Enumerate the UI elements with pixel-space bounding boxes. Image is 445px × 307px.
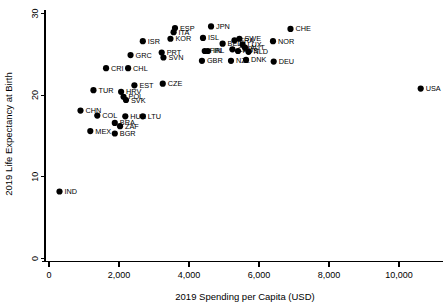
x-tick-label: 8,000 xyxy=(318,270,341,280)
point-marker xyxy=(94,112,100,118)
point-marker xyxy=(235,48,241,54)
point-marker xyxy=(167,36,173,42)
point-label: ISL xyxy=(208,33,219,42)
data-point: CZE xyxy=(160,79,183,88)
point-label: DEU xyxy=(279,57,294,66)
point-marker xyxy=(271,59,277,65)
point-marker xyxy=(112,120,118,126)
point-marker xyxy=(90,87,96,93)
point-marker xyxy=(220,41,226,47)
point-label: EST xyxy=(139,81,154,90)
data-point: GBR xyxy=(199,56,223,65)
y-tick-label: 10 xyxy=(30,172,40,182)
point-marker xyxy=(87,128,93,134)
data-point: DEU xyxy=(271,57,295,66)
y-tick-label: 30 xyxy=(30,8,40,18)
point-label: CZE xyxy=(168,79,183,88)
point-label: SVN xyxy=(168,53,183,62)
data-point: CHE xyxy=(287,24,311,33)
point-marker xyxy=(228,58,234,64)
scatter-chart: 0102030 02,0004,0006,0008,00010,000 INDC… xyxy=(0,0,445,307)
point-marker xyxy=(140,38,146,44)
data-point: CRI xyxy=(103,64,124,73)
x-axis-title: 2019 Spending per Capita (USD) xyxy=(175,291,314,302)
data-point: IRL xyxy=(205,46,224,55)
point-marker xyxy=(229,46,235,52)
point-marker xyxy=(117,123,123,129)
point-label: GBR xyxy=(207,56,223,65)
y-axis-title: 2019 Life Expectancy at Birth xyxy=(3,72,14,196)
point-marker xyxy=(200,35,206,41)
data-point: ISL xyxy=(200,33,219,42)
point-marker xyxy=(56,188,62,194)
point-marker xyxy=(103,65,109,71)
y-tick-label: 20 xyxy=(30,90,40,100)
point-marker xyxy=(418,85,424,91)
x-axis: 02,0004,0006,0008,00010,000 xyxy=(42,262,443,280)
x-tick-label: 2,000 xyxy=(108,270,131,280)
data-point: NOR xyxy=(270,37,294,46)
y-tick-label: 0 xyxy=(30,256,40,261)
point-label: CHE xyxy=(296,24,312,33)
data-point: ISR xyxy=(140,37,160,46)
point-marker xyxy=(122,113,128,119)
point-marker xyxy=(243,57,249,63)
point-label: DNK xyxy=(251,55,267,64)
data-point: IND xyxy=(56,187,77,196)
point-marker xyxy=(270,38,276,44)
point-label: IRL xyxy=(213,46,224,55)
point-label: JPN xyxy=(216,22,230,31)
point-label: ESP xyxy=(180,24,195,33)
point-label: COL xyxy=(102,111,117,120)
point-marker xyxy=(160,54,166,60)
point-label: CRI xyxy=(111,64,124,73)
point-marker xyxy=(140,113,146,119)
point-label: LTU xyxy=(148,112,161,121)
data-point: JPN xyxy=(208,22,230,31)
point-marker xyxy=(123,97,129,103)
point-label: SVK xyxy=(131,96,146,105)
data-point: GRC xyxy=(127,51,151,60)
point-label: TUR xyxy=(98,86,113,95)
point-marker xyxy=(236,36,242,42)
point-marker xyxy=(172,25,178,31)
point-label: GRC xyxy=(136,51,152,60)
x-tick-label: 10,000 xyxy=(385,270,413,280)
point-label: ISR xyxy=(148,37,160,46)
point-marker xyxy=(77,108,83,114)
point-marker xyxy=(127,52,133,58)
point-marker xyxy=(208,23,214,29)
point-label: NOR xyxy=(278,37,294,46)
data-point: CHL xyxy=(125,64,148,73)
data-point: TUR xyxy=(90,86,113,95)
data-points: INDCHNMEXTURCOLCRIBGRBRAZAFHRVPOLHUNSVKC… xyxy=(56,22,440,196)
point-marker xyxy=(160,81,166,87)
point-marker xyxy=(287,26,293,32)
x-tick-label: 4,000 xyxy=(178,270,201,280)
point-label: ZAF xyxy=(125,122,139,131)
plot-area: 0102030 02,0004,0006,0008,00010,000 INDC… xyxy=(0,0,445,307)
point-marker xyxy=(131,82,137,88)
point-label: IND xyxy=(65,187,78,196)
y-axis: 0102030 xyxy=(30,8,45,261)
point-marker xyxy=(199,58,205,64)
x-tick-label: 0 xyxy=(46,270,51,280)
point-marker xyxy=(205,48,211,54)
point-label: MEX xyxy=(95,127,111,136)
point-marker xyxy=(112,130,118,136)
x-tick-label: 6,000 xyxy=(248,270,271,280)
point-label: NLD xyxy=(254,47,269,56)
data-point: USA xyxy=(418,84,441,93)
point-label: USA xyxy=(426,84,441,93)
point-label: CHL xyxy=(133,64,148,73)
point-marker xyxy=(125,65,131,71)
data-point: MEX xyxy=(87,127,111,136)
point-marker xyxy=(245,49,251,55)
